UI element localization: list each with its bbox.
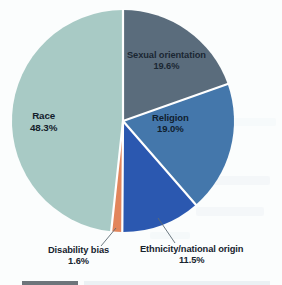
pie-chart-svg bbox=[0, 0, 282, 285]
slice-label-ethnicity-national-origin: Ethnicity/national origin 11.5% bbox=[140, 244, 243, 266]
slice-label-value: 19.0% bbox=[152, 123, 189, 134]
slice-label-religion: Religion 19.0% bbox=[152, 112, 189, 134]
slice-label-disability-bias: Disability bias 1.6% bbox=[48, 245, 109, 267]
slice-label-name: Disability bias bbox=[48, 245, 109, 256]
separator-ethnicity-disability bbox=[122, 121, 123, 232]
slice-label-sexual-orientation: Sexual orientation 19.6% bbox=[127, 50, 206, 72]
slice-label-value: 19.6% bbox=[127, 61, 206, 72]
slice-label-name: Religion bbox=[152, 112, 189, 123]
slice-label-name: Race bbox=[30, 110, 57, 122]
slice-label-name: Ethnicity/national origin bbox=[140, 244, 243, 255]
slice-label-value: 48.3% bbox=[30, 122, 57, 134]
slice-label-value: 1.6% bbox=[48, 256, 109, 267]
slice-label-race: Race 48.3% bbox=[30, 110, 57, 133]
slice-label-name: Sexual orientation bbox=[127, 50, 206, 61]
pie-chart-figure: Sexual orientation 19.6% Religion 19.0% … bbox=[0, 0, 282, 285]
pie-slice-race[interactable] bbox=[12, 10, 123, 231]
slice-label-value: 11.5% bbox=[140, 255, 243, 266]
caption-swatch bbox=[22, 281, 78, 285]
caption-text-ghost bbox=[84, 281, 270, 285]
